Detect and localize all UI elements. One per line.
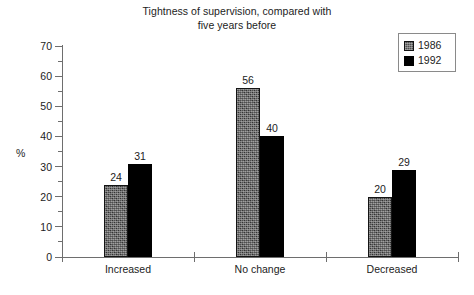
- x-tick-label: Decreased: [326, 263, 458, 276]
- bar-value-label: 56: [230, 75, 266, 86]
- bar-1986-no-change: [236, 88, 260, 257]
- plot-area: 243156402029: [62, 46, 458, 257]
- y-tick-label: 70: [0, 41, 52, 52]
- x-tick: [458, 252, 459, 262]
- legend-swatch-icon-1986: [404, 41, 414, 51]
- legend-label-1992: 1992: [418, 55, 441, 66]
- bar-value-label: 40: [254, 123, 290, 134]
- x-tick-label: No change: [194, 263, 326, 276]
- bar-1986-increased: [104, 185, 128, 257]
- y-tick-label: 40: [0, 131, 52, 142]
- y-tick-label: 20: [0, 192, 52, 203]
- legend-swatch-icon-1992: [404, 56, 414, 66]
- y-axis-title: %: [16, 147, 25, 159]
- bar-1992-increased: [128, 164, 152, 257]
- x-axis-line: [62, 257, 459, 258]
- bar-value-label: 29: [386, 157, 422, 168]
- bar-1992-no-change: [260, 136, 284, 257]
- bar-1986-decreased: [368, 197, 392, 257]
- chart-legend: 1986 1992: [398, 33, 456, 72]
- y-tick-label: 30: [0, 162, 52, 173]
- y-tick-label: 0: [0, 252, 52, 263]
- bar-value-label: 31: [122, 151, 158, 162]
- y-tick-label: 10: [0, 222, 52, 233]
- legend-item-1992: 1992: [404, 53, 441, 68]
- chart-figure: Tightness of supervision, compared with …: [0, 0, 474, 295]
- chart-title: Tightness of supervision, compared with …: [0, 5, 474, 32]
- legend-label-1986: 1986: [418, 40, 441, 51]
- bar-1992-decreased: [392, 170, 416, 257]
- y-tick-label: 60: [0, 71, 52, 82]
- legend-item-1986: 1986: [404, 38, 441, 53]
- y-tick-label: 50: [0, 101, 52, 112]
- x-tick-label: Increased: [62, 263, 194, 276]
